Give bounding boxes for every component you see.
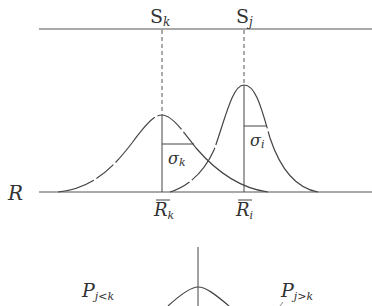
sigma-label-k: σk — [168, 149, 186, 169]
label-p-j-greater-k: Pj>k — [280, 279, 313, 303]
sigma-label-j: σi — [250, 131, 264, 151]
bottom-tick-right — [280, 302, 283, 306]
diagram-canvas: Sk Sj R σk σi Rk Ri Pj<k Pj>k — [0, 0, 372, 306]
label-rbar-k: Rk — [153, 199, 175, 222]
label-rbar-i: Ri — [235, 199, 253, 222]
axis-label-r: R — [7, 181, 23, 205]
label-s-j: Sj — [236, 5, 253, 29]
distribution-curve-k — [58, 115, 268, 192]
label-s-k: Sk — [150, 5, 170, 29]
label-p-j-less-k: Pj<k — [81, 279, 114, 303]
